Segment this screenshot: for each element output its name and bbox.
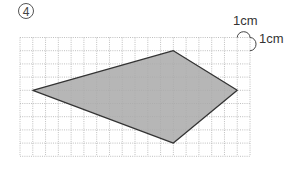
kite-shape [33,51,237,143]
unit-arc-vertical [250,38,256,51]
grid-diagram [0,0,292,170]
unit-arc-horizontal [237,32,250,38]
